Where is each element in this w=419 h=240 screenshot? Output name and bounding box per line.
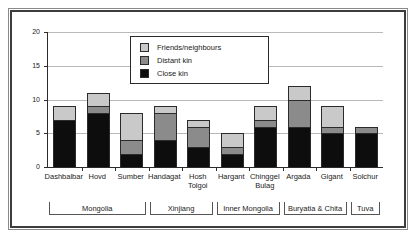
- legend-item: Friends/neighbours: [140, 41, 268, 54]
- y-axis-tick-label: 20: [24, 28, 40, 36]
- bar-segment-close: [288, 127, 311, 168]
- bar-segment-friends: [321, 106, 344, 126]
- bar-segment-friends: [120, 113, 143, 140]
- bar-0[interactable]: [53, 106, 76, 167]
- x-axis-tick: [316, 167, 317, 171]
- plot-wrapper: 05101520 DashbalbarHovdSumberHandagatHos…: [10, 10, 406, 228]
- bar-segment-distant: [288, 100, 311, 127]
- chart-legend: Friends/neighbours Distant kin Close kin: [130, 36, 269, 84]
- y-axis-tick-label: 10: [24, 96, 40, 104]
- bar-7[interactable]: [288, 86, 311, 167]
- x-axis-label-9: Solchur: [345, 172, 387, 181]
- bar-segment-close: [53, 120, 76, 167]
- legend-item: Close kin: [140, 67, 268, 80]
- bar-2[interactable]: [120, 113, 143, 167]
- legend-label-close-kin: Close kin: [157, 69, 188, 78]
- bar-8[interactable]: [321, 106, 344, 167]
- x-axis-tick: [216, 167, 217, 171]
- bar-1[interactable]: [87, 93, 110, 167]
- y-axis-tick: [44, 133, 48, 134]
- region-label: Tuva: [352, 204, 380, 214]
- bar-segment-distant: [355, 127, 378, 134]
- bar-segment-friends: [53, 106, 76, 120]
- bar-9[interactable]: [355, 127, 378, 168]
- region-bracket-1: Xinjiang: [150, 202, 213, 215]
- y-axis-tick-label: 0: [24, 163, 40, 171]
- x-axis-tick: [249, 167, 250, 171]
- y-axis-tick: [44, 100, 48, 101]
- bar-segment-close: [187, 147, 210, 167]
- bar-segment-close: [120, 154, 143, 168]
- x-axis-tick: [350, 167, 351, 171]
- region-label: Mongolia: [50, 204, 145, 214]
- bar-segment-close: [254, 127, 277, 168]
- bar-segment-friends: [87, 93, 110, 107]
- y-axis-tick: [44, 66, 48, 67]
- legend-swatch-friends-neighbours: [140, 43, 149, 52]
- region-bracket-3: Buryatia & Chita: [284, 202, 347, 215]
- region-label: Inner Mongolia: [218, 204, 279, 214]
- bar-segment-distant: [254, 120, 277, 127]
- bar-segment-friends: [221, 133, 244, 147]
- x-axis-tick: [82, 167, 83, 171]
- bar-segment-distant: [154, 113, 177, 140]
- bar-4[interactable]: [187, 120, 210, 167]
- x-axis-tick: [115, 167, 116, 171]
- legend-swatch-close-kin: [140, 69, 149, 78]
- gridline: [48, 32, 383, 33]
- y-axis-tick: [44, 32, 48, 33]
- region-bracket-4: Tuva: [351, 202, 381, 215]
- bar-segment-close: [154, 140, 177, 167]
- legend-label-friends-neighbours: Friends/neighbours: [157, 43, 221, 52]
- legend-label-distant-kin: Distant kin: [157, 56, 192, 65]
- y-axis-tick: [44, 167, 48, 168]
- bar-segment-close: [321, 133, 344, 167]
- bar-segment-distant: [120, 140, 143, 154]
- x-axis-tick: [283, 167, 284, 171]
- y-axis-tick-label: 15: [24, 62, 40, 70]
- bar-segment-close: [355, 133, 378, 167]
- bar-segment-friends: [154, 106, 177, 113]
- y-axis-tick-label: 5: [24, 129, 40, 137]
- bar-segment-distant: [187, 127, 210, 147]
- bar-segment-close: [221, 154, 244, 168]
- bar-segment-friends: [187, 120, 210, 127]
- bar-segment-distant: [87, 106, 110, 113]
- x-axis-tick: [149, 167, 150, 171]
- region-bracket-0: Mongolia: [49, 202, 146, 215]
- bar-3[interactable]: [154, 106, 177, 167]
- x-axis-tick: [182, 167, 183, 171]
- legend-swatch-distant-kin: [140, 56, 149, 65]
- figure-container: 05101520 DashbalbarHovdSumberHandagatHos…: [0, 0, 419, 240]
- bar-segment-close: [87, 113, 110, 167]
- region-label: Buryatia & Chita: [285, 204, 346, 214]
- legend-item: Distant kin: [140, 54, 268, 67]
- bar-6[interactable]: [254, 106, 277, 167]
- bar-segment-distant: [321, 127, 344, 134]
- bar-segment-distant: [221, 147, 244, 154]
- bar-segment-friends: [254, 106, 277, 120]
- region-bracket-2: Inner Mongolia: [217, 202, 280, 215]
- bar-segment-friends: [288, 86, 311, 100]
- region-label: Xinjiang: [151, 204, 212, 214]
- bar-5[interactable]: [221, 133, 244, 167]
